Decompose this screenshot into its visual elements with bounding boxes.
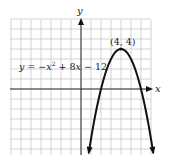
- vertex-label: (4, 4): [110, 36, 136, 47]
- curve-arrow-left-icon: [87, 147, 93, 155]
- x-axis-arrow-icon: [146, 86, 153, 92]
- equation-label: y = −x2 + 8x − 12: [18, 60, 107, 72]
- curve-arrow-right-icon: [149, 147, 155, 155]
- y-axis-label: y: [76, 5, 83, 16]
- x-axis-label: x: [155, 83, 161, 94]
- parabola-chart: x y (4, 4) y = −x2 + 8x − 12: [0, 0, 169, 160]
- vertex-point: [119, 47, 122, 50]
